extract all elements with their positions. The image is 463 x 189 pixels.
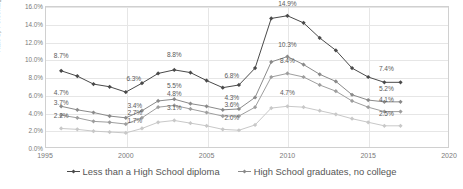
data-point-label: 6.3% bbox=[126, 75, 141, 82]
data-point-marker bbox=[204, 104, 208, 108]
data-point-marker bbox=[91, 82, 95, 86]
data-point-label: 7.4% bbox=[379, 65, 394, 72]
data-point-marker bbox=[108, 114, 112, 118]
data-point-marker bbox=[188, 102, 192, 106]
data-point-marker bbox=[91, 119, 95, 123]
legend-label: High School graduates, no college bbox=[254, 166, 397, 177]
x-axis-tick-label: 2015 bbox=[360, 152, 376, 159]
data-point-label: 8.7% bbox=[54, 51, 69, 58]
data-point-label: 3.4% bbox=[127, 101, 142, 108]
data-point-label: 5.2% bbox=[379, 84, 394, 91]
data-point-marker bbox=[108, 120, 112, 124]
data-point-marker bbox=[398, 109, 402, 113]
y-axis-tick-label: 12.0% bbox=[3, 38, 43, 45]
data-point-label: 4.7% bbox=[280, 89, 295, 96]
data-point-marker bbox=[366, 120, 370, 124]
data-point-marker bbox=[108, 130, 112, 134]
data-point-marker bbox=[221, 86, 225, 90]
data-point-marker bbox=[285, 71, 289, 75]
data-point-marker bbox=[301, 105, 305, 109]
data-point-marker bbox=[301, 75, 305, 79]
data-point-label: 1.7% bbox=[127, 116, 142, 123]
data-point-marker bbox=[188, 107, 192, 111]
data-point-label: 2.5% bbox=[379, 109, 394, 116]
data-point-label: 3.7% bbox=[54, 99, 69, 106]
data-point-marker bbox=[124, 90, 128, 94]
data-point-marker bbox=[269, 16, 273, 20]
data-point-marker bbox=[140, 81, 144, 85]
y-axis-tick-label: 16.0% bbox=[3, 3, 43, 10]
data-point-marker bbox=[398, 80, 402, 84]
data-point-marker bbox=[59, 126, 63, 130]
legend-item[interactable]: High School graduates, no college bbox=[238, 166, 397, 177]
data-point-marker bbox=[398, 124, 402, 128]
chart-legend: Less than a High School diplomaHigh Scho… bbox=[0, 166, 463, 177]
data-point-marker bbox=[172, 97, 176, 101]
y-axis-tick-label: 4.0% bbox=[3, 109, 43, 116]
data-point-marker bbox=[350, 99, 354, 103]
data-point-marker bbox=[318, 83, 322, 87]
x-axis-tick-label: 1995 bbox=[37, 152, 53, 159]
data-point-marker bbox=[269, 75, 273, 79]
legend-marker-icon bbox=[238, 168, 251, 176]
legend-marker-icon bbox=[67, 168, 80, 176]
legend-label: Less than a High School diploma bbox=[83, 166, 220, 177]
x-axis-tick-label: 2020 bbox=[441, 152, 457, 159]
data-point-label: 8.4% bbox=[280, 57, 295, 64]
data-point-marker bbox=[366, 98, 370, 102]
data-point-label: 2.2% bbox=[54, 112, 69, 119]
x-axis-tick-label: 2010 bbox=[280, 152, 296, 159]
data-point-marker bbox=[156, 99, 160, 103]
data-point-marker bbox=[156, 120, 160, 124]
series-lines bbox=[45, 6, 449, 148]
data-point-marker bbox=[204, 124, 208, 128]
data-point-marker bbox=[188, 70, 192, 74]
y-axis-tick-label: 6.0% bbox=[3, 91, 43, 98]
data-point-label: 4.8% bbox=[167, 90, 182, 97]
data-point-label: 2.7% bbox=[127, 109, 142, 116]
y-axis-tick-label: 14.0% bbox=[3, 20, 43, 27]
x-axis-tick-label: 2000 bbox=[118, 152, 134, 159]
data-point-label: 10.3% bbox=[278, 40, 296, 47]
data-point-marker bbox=[350, 117, 354, 121]
data-point-marker bbox=[237, 128, 241, 132]
data-point-marker bbox=[172, 118, 176, 122]
data-point-marker bbox=[253, 105, 257, 109]
data-point-marker bbox=[318, 109, 322, 113]
data-point-marker bbox=[204, 110, 208, 114]
data-point-marker bbox=[301, 62, 305, 66]
legend-item[interactable]: Less than a High School diploma bbox=[67, 166, 220, 177]
data-point-marker bbox=[269, 60, 273, 64]
data-point-marker bbox=[75, 127, 79, 131]
data-point-marker bbox=[75, 108, 79, 112]
data-point-marker bbox=[382, 124, 386, 128]
data-point-marker bbox=[108, 85, 112, 89]
data-point-label: 5.5% bbox=[167, 82, 182, 89]
data-point-label: 2.0% bbox=[224, 114, 239, 121]
data-point-label: 3.1% bbox=[167, 104, 182, 111]
y-axis-tick-label: 2.0% bbox=[3, 127, 43, 134]
y-axis-tick-label: 8.0% bbox=[3, 74, 43, 81]
data-point-marker bbox=[221, 108, 225, 112]
data-point-label: 4.7% bbox=[54, 89, 69, 96]
data-point-marker bbox=[366, 105, 370, 109]
data-point-label: 4.1% bbox=[379, 95, 394, 102]
line-chart: Rate by Percentage 0.0%2.0%4.0%6.0%8.0%1… bbox=[0, 0, 463, 189]
data-point-marker bbox=[398, 100, 402, 104]
data-point-label: 6.8% bbox=[224, 71, 239, 78]
data-point-label: 8.8% bbox=[167, 50, 182, 57]
x-axis-tick-label: 2005 bbox=[199, 152, 215, 159]
data-point-marker bbox=[124, 131, 128, 135]
data-point-marker bbox=[188, 121, 192, 125]
y-axis-tick-label: 10.0% bbox=[3, 56, 43, 63]
data-point-marker bbox=[75, 116, 79, 120]
data-point-marker bbox=[334, 89, 338, 93]
data-point-marker bbox=[285, 14, 289, 18]
y-axis-tick-labels: 0.0%2.0%4.0%6.0%8.0%10.0%12.0%14.0%16.0% bbox=[0, 0, 43, 189]
data-point-label: 14.9% bbox=[278, 0, 296, 6]
data-point-marker bbox=[91, 110, 95, 114]
data-point-marker bbox=[318, 72, 322, 76]
y-axis-tick-label: 0.0% bbox=[3, 145, 43, 152]
data-point-marker bbox=[172, 68, 176, 72]
data-point-marker bbox=[59, 69, 63, 73]
